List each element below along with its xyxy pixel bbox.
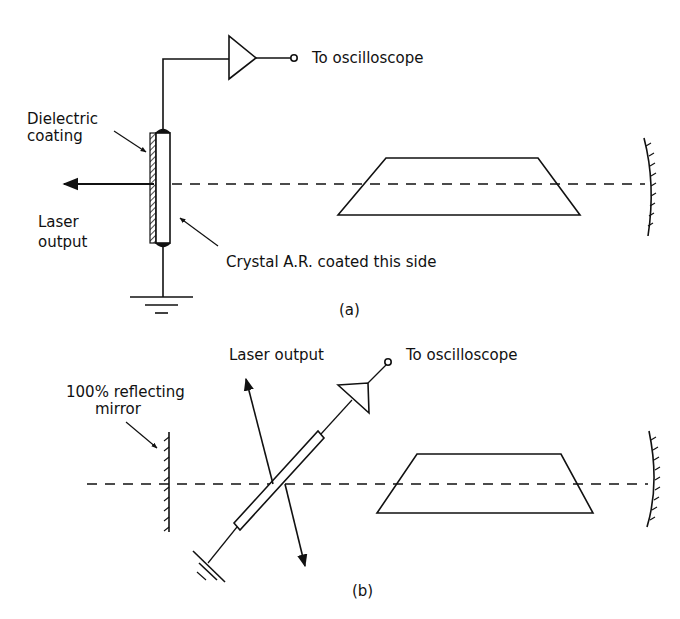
caption-a: (a): [339, 302, 360, 318]
label-mirror-line1: 100% reflecting: [66, 384, 185, 400]
laser-output-arrow-up: [246, 379, 273, 484]
terminal-icon-b: [385, 359, 391, 365]
mirror-pointer: [126, 422, 157, 448]
label-laser-output-line2: output: [38, 234, 87, 250]
crystal-a: [156, 133, 170, 243]
dielectric-coating: [150, 133, 156, 243]
label-mirror-line2: mirror: [95, 401, 141, 417]
gain-medium-a: [338, 158, 580, 215]
laser-output-arrow-down: [285, 484, 305, 566]
caption-b: (b): [352, 583, 373, 599]
ground-icon-b: [193, 551, 225, 582]
terminal-icon-a: [291, 55, 297, 61]
amplifier-icon-b: [338, 383, 369, 413]
label-to-oscilloscope-b: To oscilloscope: [406, 347, 517, 363]
label-dielectric-coating-line1: Dielectric: [27, 111, 98, 127]
label-laser-output-b: Laser output: [229, 347, 324, 363]
curved-mirror-a: [644, 138, 651, 236]
crystal-b: [234, 431, 324, 530]
signal-wire-a: [163, 59, 229, 131]
label-dielectric-coating-line2: coating: [27, 128, 83, 144]
panel-a: [64, 36, 656, 313]
amplifier-icon-a: [229, 36, 256, 79]
label-crystal-ar-coated: Crystal A.R. coated this side: [226, 254, 436, 270]
crystal-pointer: [180, 218, 218, 246]
curved-mirror-b: [647, 431, 654, 527]
dielectric-pointer: [114, 131, 146, 152]
label-to-oscilloscope-a: To oscilloscope: [312, 50, 423, 66]
label-laser-output-line1: Laser: [38, 214, 79, 230]
